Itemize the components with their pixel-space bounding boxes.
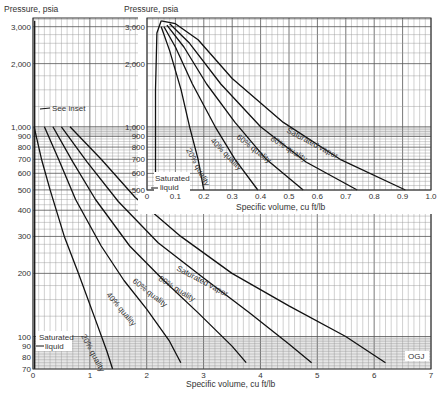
- svg-text:600: 600: [132, 169, 146, 178]
- svg-text:2,000: 2,000: [11, 60, 32, 69]
- inset-saturated-liquid-label: Saturated liquid: [151, 172, 190, 192]
- svg-text:0: 0: [31, 371, 36, 380]
- svg-text:1: 1: [88, 371, 93, 380]
- svg-text:2,000: 2,000: [125, 60, 146, 69]
- see-inset-label: See inset: [52, 104, 86, 113]
- svg-text:900: 900: [18, 132, 32, 141]
- svg-text:2: 2: [144, 371, 149, 380]
- svg-text:7: 7: [429, 371, 434, 380]
- inset-y-axis-label: Pressure, psia: [124, 4, 179, 14]
- svg-text:500: 500: [18, 186, 32, 195]
- inset-sat-liquid-text-2: liquid: [160, 183, 179, 192]
- svg-text:0.1: 0.1: [170, 192, 182, 201]
- svg-text:0.2: 0.2: [198, 192, 210, 201]
- svg-text:6: 6: [372, 371, 377, 380]
- svg-text:0.9: 0.9: [397, 192, 409, 201]
- svg-text:80: 80: [22, 353, 31, 362]
- see-inset-annotation: See inset: [40, 104, 86, 113]
- svg-text:200: 200: [18, 269, 32, 278]
- inset-sat-liquid-text-1: Saturated: [155, 174, 190, 183]
- svg-text:0.8: 0.8: [369, 192, 381, 201]
- svg-text:400: 400: [18, 206, 32, 215]
- main-x-axis-label: Specific volume, cu ft/lb: [186, 379, 276, 389]
- svg-text:1,000: 1,000: [125, 123, 146, 132]
- credit-text: OGJ: [408, 352, 424, 361]
- svg-text:600: 600: [18, 169, 32, 178]
- main-label-40: 40% quality: [104, 291, 137, 328]
- inset-x-axis-label: Specific volume, cu ft/lb: [236, 202, 326, 212]
- credit-badge: OGJ: [405, 351, 429, 361]
- svg-text:800: 800: [18, 143, 32, 152]
- svg-text:1,000: 1,000: [11, 123, 32, 132]
- svg-text:0.6: 0.6: [312, 192, 324, 201]
- svg-text:500: 500: [132, 186, 146, 195]
- svg-text:900: 900: [132, 132, 146, 141]
- svg-text:0.4: 0.4: [255, 192, 267, 201]
- svg-text:70: 70: [22, 365, 31, 374]
- svg-text:1.0: 1.0: [425, 192, 437, 201]
- svg-text:300: 300: [18, 232, 32, 241]
- svg-text:3,000: 3,000: [125, 23, 146, 32]
- svg-text:0.3: 0.3: [227, 192, 239, 201]
- main-saturated-liquid-label: Saturated liquid: [36, 331, 74, 351]
- svg-text:800: 800: [132, 143, 146, 152]
- svg-text:5: 5: [315, 371, 320, 380]
- svg-text:3,000: 3,000: [11, 23, 32, 32]
- svg-text:0: 0: [145, 192, 150, 201]
- main-sat-liquid-text-1: Saturated: [39, 333, 74, 342]
- main-sat-liquid-text-2: liquid: [45, 342, 64, 351]
- svg-text:0.5: 0.5: [283, 192, 295, 201]
- svg-text:700: 700: [132, 155, 146, 164]
- svg-text:90: 90: [22, 342, 31, 351]
- pressure-volume-chart: 0123456770809010020030040050060070080090…: [0, 0, 444, 393]
- svg-text:0.7: 0.7: [340, 192, 352, 201]
- svg-text:700: 700: [18, 155, 32, 164]
- main-y-axis-label: Pressure, psia: [4, 4, 59, 14]
- svg-text:100: 100: [18, 333, 32, 342]
